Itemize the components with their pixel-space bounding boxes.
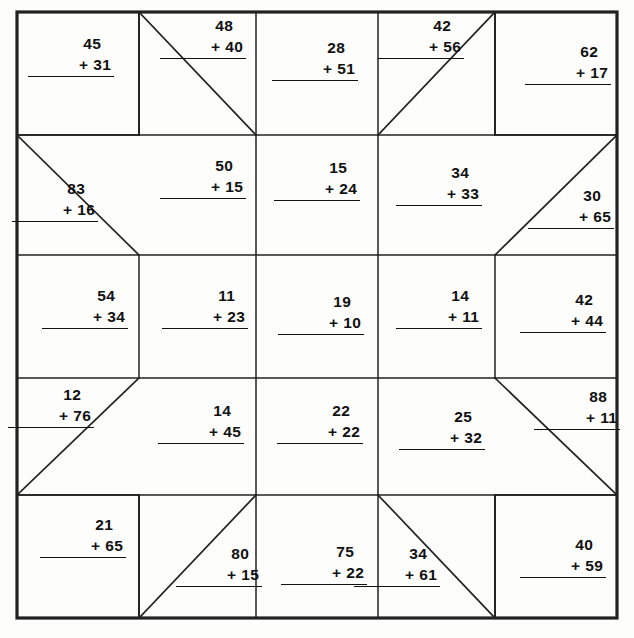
diagonal-left-row1 — [17, 135, 139, 255]
bottom-right-square — [495, 495, 617, 618]
diagonal-left-row3 — [17, 378, 139, 495]
quilt-pattern-svg — [0, 0, 634, 638]
diagonal-right-row3 — [495, 378, 617, 495]
diagonal-bottom-col1 — [139, 495, 256, 618]
bottom-left-square — [17, 495, 139, 618]
addition-quilt-worksheet: 45+3148+4028+5142+5662+1783+1650+1515+24… — [0, 0, 634, 638]
top-right-square — [495, 12, 617, 135]
top-left-square — [17, 12, 139, 135]
diagonal-right-row1 — [495, 135, 617, 255]
outer-border — [17, 12, 617, 618]
diagonal-top-col1 — [139, 12, 256, 135]
diagonal-bottom-col3 — [378, 495, 495, 618]
diagonal-top-col3 — [378, 12, 495, 135]
